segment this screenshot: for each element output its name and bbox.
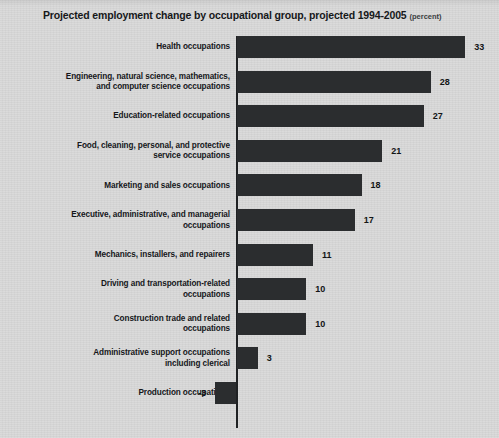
category-label: Engineering, natural science, mathematic… xyxy=(15,72,230,93)
category-label-line1: Mechanics, installers, and repairers xyxy=(95,250,230,259)
category-label-line1: Education-related occupations xyxy=(113,111,230,120)
bar-value-label: 11 xyxy=(322,244,332,266)
bar-row: Marketing and sales occupations18 xyxy=(0,174,499,209)
bar-value-label: -3 xyxy=(198,382,206,404)
category-label-line1: Engineering, natural science, mathematic… xyxy=(66,72,230,81)
bar-value-label: 10 xyxy=(315,278,325,300)
plot-area: Health occupations33Engineering, natural… xyxy=(0,32,499,430)
bar-value-label: 27 xyxy=(433,105,443,127)
category-label-line2: occupations xyxy=(15,324,230,334)
bar-value-label: 21 xyxy=(391,140,401,162)
bar-row: Food, cleaning, personal, and protective… xyxy=(0,140,499,175)
bar-value-label: 18 xyxy=(371,174,381,196)
category-label-line1: Health occupations xyxy=(156,42,230,51)
bar xyxy=(237,278,306,300)
category-label-line2: occupations xyxy=(15,290,230,300)
chart-title: Projected employment change by occupatio… xyxy=(43,9,442,21)
category-label: Education-related occupations xyxy=(15,111,230,121)
bar-value-label: 28 xyxy=(440,71,450,93)
bar-row: Engineering, natural science, mathematic… xyxy=(0,71,499,106)
bar xyxy=(237,174,362,196)
category-label-line1: Food, cleaning, personal, and protective xyxy=(77,141,230,150)
category-label-line1: Construction trade and related xyxy=(114,314,230,323)
bar-value-label: 17 xyxy=(364,209,374,231)
chart-page: Projected employment change by occupatio… xyxy=(0,0,499,438)
category-label-line2: occupations xyxy=(15,221,230,231)
bar-row: Administrative support occupationsinclud… xyxy=(0,347,499,382)
bar-row: Production occupations-3 xyxy=(0,382,499,417)
bar xyxy=(237,36,465,58)
bar xyxy=(237,71,431,93)
category-label: Food, cleaning, personal, and protective… xyxy=(15,141,230,162)
category-label-line2: service occupations xyxy=(15,151,230,161)
bar-value-label: 33 xyxy=(474,36,484,58)
bar-row: Health occupations33 xyxy=(0,36,499,71)
category-label-line1: Marketing and sales occupations xyxy=(104,181,230,190)
category-label-line1: Administrative support occupations xyxy=(93,348,230,357)
bar xyxy=(237,209,355,231)
category-label: Mechanics, installers, and repairers xyxy=(15,250,230,260)
bar xyxy=(237,105,424,127)
category-label: Health occupations xyxy=(15,42,230,52)
category-label: Driving and transportation-relatedoccupa… xyxy=(15,279,230,300)
category-label-line2: including clerical xyxy=(15,359,230,369)
bar xyxy=(237,347,258,369)
category-label: Administrative support occupationsinclud… xyxy=(15,348,230,369)
bar xyxy=(237,140,382,162)
bar-value-label: 10 xyxy=(315,313,325,335)
category-label-line1: Driving and transportation-related xyxy=(101,279,230,288)
bar-row: Mechanics, installers, and repairers11 xyxy=(0,244,499,279)
category-label: Executive, administrative, and manageria… xyxy=(15,210,230,231)
bar xyxy=(215,382,236,404)
bar xyxy=(237,244,313,266)
chart-unit-note: (percent) xyxy=(407,12,442,21)
bar-row: Education-related occupations27 xyxy=(0,105,499,140)
bar-row: Construction trade and relatedoccupation… xyxy=(0,313,499,348)
bar-row: Driving and transportation-relatedoccupa… xyxy=(0,278,499,313)
scan-edge-artifact xyxy=(0,0,499,6)
bar xyxy=(237,313,306,335)
bar-row: Executive, administrative, and manageria… xyxy=(0,209,499,244)
category-label: Marketing and sales occupations xyxy=(15,181,230,191)
category-label-line1: Executive, administrative, and manageria… xyxy=(71,210,230,219)
chart-title-text: Projected employment change by occupatio… xyxy=(43,9,407,21)
category-label-line2: and computer science occupations xyxy=(15,82,230,92)
bar-value-label: 3 xyxy=(267,347,272,369)
category-label: Construction trade and relatedoccupation… xyxy=(15,314,230,335)
